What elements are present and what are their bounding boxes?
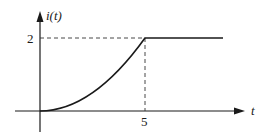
y-axis-arrow-icon — [37, 11, 44, 22]
series-curve — [40, 38, 223, 111]
current-vs-time-chart: i(t) 2 5 t — [0, 0, 267, 140]
y-axis-label: i(t) — [46, 8, 62, 23]
x-tick-label: 5 — [141, 114, 148, 129]
y-tick-label: 2 — [27, 31, 34, 46]
x-axis-arrow-icon — [234, 108, 245, 115]
x-axis-label: t — [251, 103, 255, 118]
